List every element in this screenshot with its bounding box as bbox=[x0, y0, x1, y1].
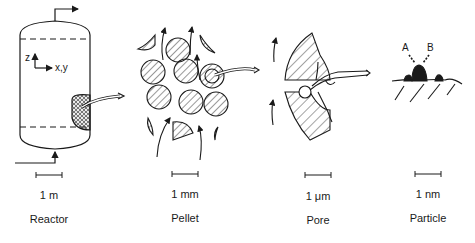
diagram-canvas bbox=[0, 0, 475, 243]
panel-label-pellet: Pellet bbox=[145, 212, 225, 224]
panel-label-pore: Pore bbox=[278, 214, 358, 226]
scale-bar-reactor bbox=[36, 172, 62, 178]
pore-structure bbox=[272, 33, 370, 140]
scale-bar-pellet bbox=[172, 171, 198, 177]
scale-reactor: 1 m bbox=[9, 189, 89, 201]
particle-surface bbox=[392, 55, 462, 102]
scale-pellet: 1 mm bbox=[145, 188, 225, 200]
panel-label-particle: Particle bbox=[388, 212, 468, 224]
panel-label-reactor: Reactor bbox=[9, 213, 89, 225]
species-b-label: B bbox=[427, 42, 434, 53]
scale-bar-pore bbox=[305, 172, 331, 178]
reactor-vessel bbox=[15, 9, 124, 163]
scale-bar-particle bbox=[415, 171, 441, 177]
scale-particle: 1 nm bbox=[388, 188, 468, 200]
scale-bars bbox=[36, 171, 441, 178]
pellet-bed bbox=[138, 27, 259, 160]
axis-z-label: z bbox=[25, 52, 30, 63]
species-a-label: A bbox=[402, 42, 409, 53]
axis-xy-label: x,y bbox=[55, 62, 68, 73]
scale-pore: 1 μm bbox=[278, 190, 358, 202]
